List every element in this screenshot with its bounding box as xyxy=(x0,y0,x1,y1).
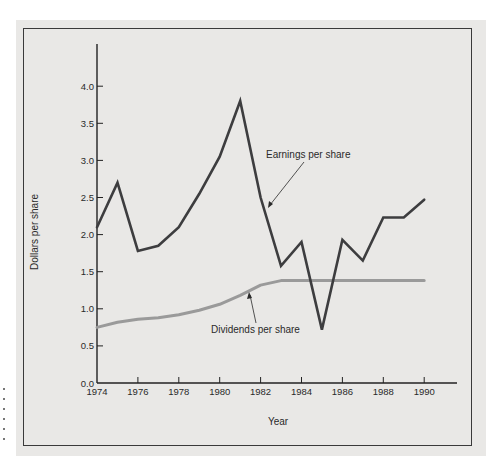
dividends-arrow-line xyxy=(250,295,256,323)
y-tick-label: 1.0 xyxy=(81,303,94,314)
y-tick-label: 4.0 xyxy=(81,81,94,92)
y-axis-title: Dollars per share xyxy=(29,193,40,270)
x-tick-label: 1984 xyxy=(291,386,312,397)
x-tick-label: 1986 xyxy=(332,386,353,397)
y-tick-label: 3.5 xyxy=(81,118,94,129)
x-tick-label: 1974 xyxy=(86,386,107,397)
y-tick-label: 0.5 xyxy=(81,340,94,351)
x-tick-label: 1978 xyxy=(168,386,189,397)
x-tick-label: 1990 xyxy=(414,386,435,397)
x-tick-label: 1988 xyxy=(373,386,394,397)
y-axis: 0.00.51.01.52.02.53.03.54.0 xyxy=(81,44,103,389)
dividends-annotation: Dividends per share xyxy=(211,324,300,335)
x-axis: 197419761978198019821984198619881990 xyxy=(86,377,457,397)
y-tick-label: 2.5 xyxy=(81,192,94,203)
x-tick-label: 1980 xyxy=(209,386,230,397)
line-chart: 0.00.51.01.52.02.53.03.54.0 197419761978… xyxy=(0,0,494,466)
x-tick-label: 1976 xyxy=(127,386,148,397)
x-tick-label: 1982 xyxy=(250,386,271,397)
dividends-per-share-line xyxy=(97,281,424,328)
earnings-arrow-line xyxy=(270,162,304,205)
y-tick-label: 2.0 xyxy=(81,229,94,240)
y-tick-label: 3.0 xyxy=(81,155,94,166)
x-axis-title: Year xyxy=(268,416,289,427)
series-layer xyxy=(97,101,424,330)
y-tick-label: 1.5 xyxy=(81,266,94,277)
earnings-annotation: Earnings per share xyxy=(266,149,351,160)
earnings-per-share-line xyxy=(97,101,424,330)
